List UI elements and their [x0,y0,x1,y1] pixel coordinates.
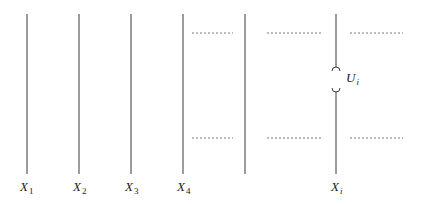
label-ui: Ui [346,71,359,87]
label-x1: X1 [20,180,33,196]
label-x4-sub: 4 [186,186,191,196]
label-xi-main: X [331,179,339,194]
label-xi-sub: i [340,186,343,196]
label-x3: X3 [125,180,138,196]
diagram-canvas [0,0,423,204]
label-x4: X4 [177,180,190,196]
ui-arc-bottom [332,88,340,92]
label-x3-main: X [125,179,133,194]
ui-arc-top [332,67,340,71]
label-x2: X2 [73,180,86,196]
label-ui-main: U [346,70,355,85]
label-x2-sub: 2 [82,186,87,196]
label-xi: Xi [331,180,342,196]
label-x1-main: X [20,179,28,194]
label-ui-sub: i [356,77,359,87]
label-x3-sub: 3 [134,186,139,196]
label-x1-sub: 1 [29,186,34,196]
label-x4-main: X [177,179,185,194]
label-x2-main: X [73,179,81,194]
